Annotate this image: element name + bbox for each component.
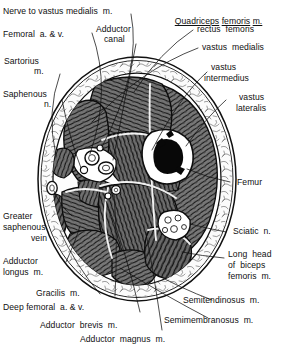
femur-bone xyxy=(142,130,193,184)
label-biceps-long-head-line3: femoris m. xyxy=(228,271,271,281)
label-vastus-lateralis-line2: lateralis xyxy=(236,103,266,113)
label-adductor-magnus: Adductor magnus m. xyxy=(80,334,165,344)
label-greater-saphenous-vein-line2: saphenous xyxy=(3,222,46,232)
label-sartorius-line2: m. xyxy=(34,66,44,76)
label-saphenous-nerve-line1: Saphenous xyxy=(3,89,47,99)
figure-canvas: Nerve to vastus medialis m. Femoral a. &… xyxy=(0,0,284,346)
label-vastus-intermedius-line1: vastus xyxy=(211,62,236,72)
label-adductor-brevis: Adductor brevis m. xyxy=(40,320,117,330)
label-semitendinosus: Semitendinosus m. xyxy=(183,295,259,305)
label-adductor-canal-line2: canal xyxy=(104,34,125,44)
label-femur: Femur xyxy=(237,177,262,187)
label-sartorius-line1: Sartorius xyxy=(4,56,39,66)
label-greater-saphenous-vein-line3: vein xyxy=(31,233,47,243)
label-rectus-femoris: rectus femoris xyxy=(197,24,254,34)
label-saphenous-nerve-line2: n. xyxy=(44,99,51,109)
label-nerve-to-vastus-medialis: Nerve to vastus medialis m. xyxy=(3,6,112,16)
label-sciatic-nerve: Sciatic n. xyxy=(233,226,271,236)
label-gracilis: Gracilis m. xyxy=(36,288,80,298)
label-adductor-longus-line1: Adductor xyxy=(3,256,38,266)
saphenous-nerve xyxy=(80,166,87,173)
label-greater-saphenous-vein-line1: Greater xyxy=(3,211,32,221)
label-biceps-long-head-line1: Long head xyxy=(228,249,272,259)
label-adductor-longus-line2: longus m. xyxy=(3,267,43,277)
greater-saphenous-vein-vessel xyxy=(47,181,57,194)
label-adductor-canal-line1: Adductor xyxy=(96,24,131,34)
label-vastus-lateralis-line1: vastus xyxy=(239,92,264,102)
label-deep-femoral-vessels: Deep femoral a. & v. xyxy=(3,302,84,312)
nerve-to-vastus-medialis xyxy=(97,145,103,151)
label-semimembranosus: Semimembranosus m. xyxy=(164,315,253,325)
label-vastus-medialis: vastus medialis xyxy=(202,42,264,52)
label-biceps-long-head-line2: of biceps xyxy=(228,260,265,270)
label-femoral-vessels: Femoral a. & v. xyxy=(3,29,64,39)
label-vastus-intermedius-line2: intermedius xyxy=(204,73,249,83)
